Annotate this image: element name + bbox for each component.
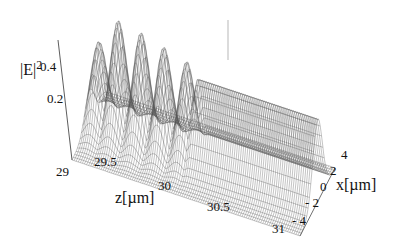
z-tick-29.5: 29.5 bbox=[94, 155, 117, 168]
z-tick-31: 31 bbox=[272, 222, 285, 235]
zaxis-title: |E|2 bbox=[20, 62, 42, 78]
zaxis-title-main: |E| bbox=[20, 61, 36, 78]
tick-0.4: 0.4 bbox=[40, 60, 56, 73]
tick-0.2: 0.2 bbox=[47, 92, 63, 105]
x-tick-0: 0 bbox=[320, 180, 327, 193]
z-tick-30: 30 bbox=[158, 179, 171, 192]
x-tick-minus-4: - 4 bbox=[292, 214, 306, 227]
x-tick-4: 4 bbox=[341, 148, 348, 161]
x-tick-minus-2: - 2 bbox=[305, 196, 319, 209]
z-axis-label: z[µm] bbox=[115, 190, 154, 206]
wireframe-mesh bbox=[72, 21, 335, 236]
x-axis-label: x[µm] bbox=[336, 177, 376, 193]
z-tick-30.5: 30.5 bbox=[207, 200, 230, 213]
z-tick-29: 29 bbox=[56, 165, 69, 178]
surface-plot bbox=[0, 0, 400, 247]
